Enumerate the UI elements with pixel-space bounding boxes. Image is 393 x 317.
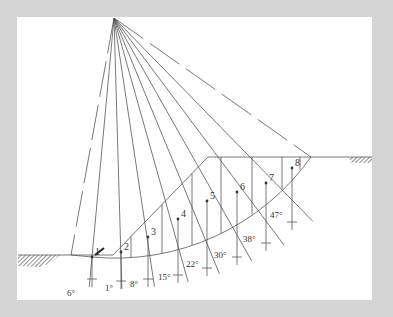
slice-label-4: 4 [181, 208, 186, 219]
radial-line-2 [114, 18, 122, 289]
slice-label-6: 6 [240, 181, 245, 192]
right-dashed-radius [114, 18, 311, 157]
ground-profile-line [18, 157, 372, 255]
angle-label-6: 30° [214, 250, 227, 260]
radial-line-5 [114, 18, 219, 274]
ground-surface [18, 157, 372, 267]
left-dashed-radius [71, 18, 114, 255]
angle-label-2: 1° [105, 283, 114, 293]
angle-label-7: 38° [243, 234, 256, 244]
angle-label-3: 8° [130, 279, 139, 289]
radial-lines [71, 18, 313, 289]
slice-point-1 [91, 256, 94, 259]
left-ground-hatch [18, 255, 60, 267]
right-ground-hatch [348, 157, 372, 163]
slice-point-6 [236, 191, 239, 194]
slope-diagram: 16°21°38°415°522°630°738°847° [0, 0, 393, 317]
slice-labels: 16°21°38°415°522°630°738°847° [67, 157, 300, 298]
radial-line-7 [114, 18, 284, 245]
angle-label-8: 47° [270, 210, 283, 220]
slice-label-3: 3 [151, 226, 156, 237]
slice-point-7 [265, 182, 268, 185]
slice-point-5 [206, 200, 209, 203]
slice-label-2: 2 [124, 241, 129, 252]
slice-point-8 [291, 167, 294, 170]
angle-label-1: 6° [67, 288, 76, 298]
slice-point-2 [120, 251, 123, 254]
figure: 16°21°38°415°522°630°738°847° [0, 0, 393, 317]
radial-line-1 [89, 18, 114, 287]
slice-label-7: 7 [269, 172, 274, 183]
slice-label-5: 5 [210, 190, 215, 201]
slice-point-4 [177, 218, 180, 221]
angle-label-4: 15° [158, 272, 171, 282]
angle-label-5: 22° [186, 259, 199, 269]
slice-point-3 [147, 236, 150, 239]
radial-line-6 [114, 18, 252, 261]
slice-label-8: 8 [295, 157, 300, 168]
